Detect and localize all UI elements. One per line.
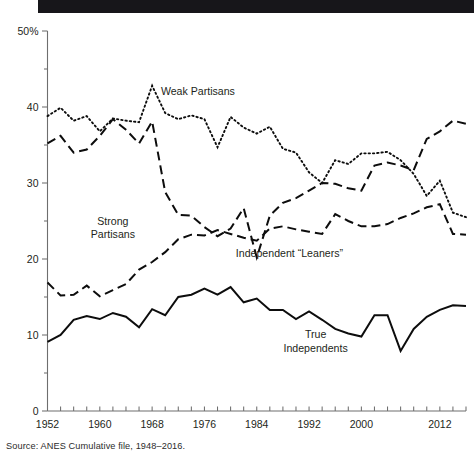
- x-tick-label: 1984: [245, 418, 269, 430]
- y-tick-label: 30: [27, 177, 39, 189]
- x-tick-label: 1992: [297, 418, 321, 430]
- series-label-strong-partisans: StrongPartisans: [91, 215, 135, 241]
- x-tick-label: 1976: [193, 418, 217, 430]
- series-label-true-independents: TrueIndependents: [283, 328, 347, 354]
- series-line-true-independents: [48, 287, 467, 351]
- series-label-weak-partisans: Weak Partisans: [161, 85, 235, 97]
- chart-plot-area: 01020304050%1952196019681976198419922000…: [0, 0, 474, 438]
- series-label-independent-leaners: Independent “Leaners”: [236, 247, 344, 259]
- x-tick-label: 2000: [350, 418, 374, 430]
- x-tick-label: 1960: [88, 418, 112, 430]
- x-tick-label: 1968: [140, 418, 164, 430]
- x-tick-label: 2012: [428, 418, 452, 430]
- chart-figure: 01020304050%1952196019681976198419922000…: [0, 0, 474, 461]
- y-tick-label: 0: [33, 405, 39, 417]
- y-tick-label: 10: [27, 329, 39, 341]
- party-identification-line-chart: 01020304050%1952196019681976198419922000…: [0, 0, 474, 438]
- series-line-weak-partisans: [48, 86, 467, 217]
- x-tick-label: 1952: [36, 418, 60, 430]
- y-tick-label: 40: [27, 101, 39, 113]
- y-tick-label: 20: [27, 253, 39, 265]
- y-tick-label: 50%: [17, 25, 38, 37]
- source-note: Source: ANES Cumulative file, 1948–2016.: [6, 441, 185, 451]
